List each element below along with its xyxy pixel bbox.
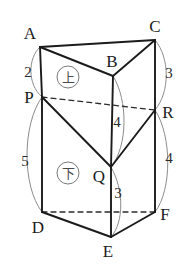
region-tag-lower: 下 xyxy=(57,162,80,185)
region-tag-lower-glyph: 下 xyxy=(62,167,75,180)
edge-P-R-dashed xyxy=(42,97,155,110)
vertex-label-P: P xyxy=(24,89,33,106)
vertex-label-A: A xyxy=(24,25,36,42)
region-tag-upper: 上 xyxy=(57,66,80,89)
edge-length-CR: 3 xyxy=(165,66,173,81)
edge-length-BQ: 4 xyxy=(113,115,121,130)
vertex-label-D: D xyxy=(32,219,44,236)
edge-length-RF: 4 xyxy=(165,151,173,166)
vertex-label-C: C xyxy=(149,18,160,35)
edge-P-Q xyxy=(42,97,111,167)
edge-length-QE: 3 xyxy=(114,186,122,201)
edge-D-E xyxy=(42,212,111,237)
arc-middle-lower xyxy=(111,167,121,237)
edge-A-C xyxy=(40,40,155,47)
edge-B-C xyxy=(113,40,155,76)
vertex-label-E: E xyxy=(103,243,113,260)
bottom-face-DEF xyxy=(42,212,155,237)
arc-left-lower xyxy=(27,97,42,212)
edge-A-P xyxy=(40,47,42,97)
mid-section-PQR xyxy=(42,97,155,167)
vertex-label-B: B xyxy=(106,53,117,70)
edge-length-PD: 5 xyxy=(21,154,29,169)
vertex-label-F: F xyxy=(160,206,169,223)
vertex-label-R: R xyxy=(162,104,173,121)
region-tag-upper-glyph: 上 xyxy=(62,71,75,84)
edge-length-AP: 2 xyxy=(24,65,32,80)
geometry-figure: A B C P Q R D E F 2 5 3 4 4 3 上 下 xyxy=(0,0,189,277)
vertex-label-Q: Q xyxy=(93,168,105,185)
